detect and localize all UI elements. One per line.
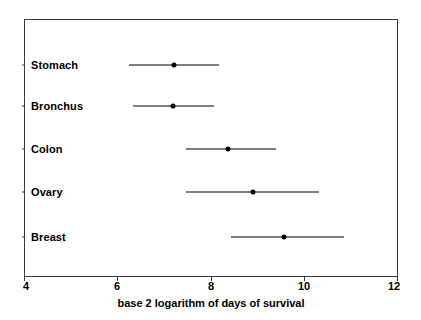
point-marker-breast [282, 235, 287, 240]
x-axis-label-4: 4 [23, 280, 29, 292]
row-label-bronchus: Bronchus [31, 100, 83, 112]
row-label-colon: Colon [31, 143, 63, 155]
point-marker-bronchus [171, 104, 176, 109]
x-axis-label-12: 12 [388, 280, 400, 292]
point-marker-stomach [172, 63, 177, 68]
y-axis-tick-breast [22, 237, 25, 238]
y-axis-tick-bronchus [22, 106, 25, 107]
x-axis-label-6: 6 [114, 280, 120, 292]
x-axis-label-10: 10 [298, 280, 310, 292]
row-label-stomach: Stomach [31, 59, 78, 71]
x-axis-label-8: 8 [208, 280, 214, 292]
y-axis-tick-colon [22, 149, 25, 150]
interval-line-breast [231, 237, 344, 238]
x-axis: 4 6 8 10 12 base 2 logarithm of days of … [24, 277, 398, 317]
point-marker-colon [226, 147, 231, 152]
y-axis-tick-stomach [22, 65, 25, 66]
y-axis-tick-ovary [22, 192, 25, 193]
row-label-ovary: Ovary [31, 186, 63, 198]
plot-area: Stomach Bronchus Colon Ovary [24, 19, 398, 277]
point-marker-ovary [251, 190, 256, 195]
interval-line-colon [186, 149, 276, 150]
chart-figure: Stomach Bronchus Colon Ovary [0, 0, 421, 320]
x-axis-title: base 2 logarithm of days of survival [24, 297, 398, 309]
row-label-breast: Breast [31, 231, 66, 243]
